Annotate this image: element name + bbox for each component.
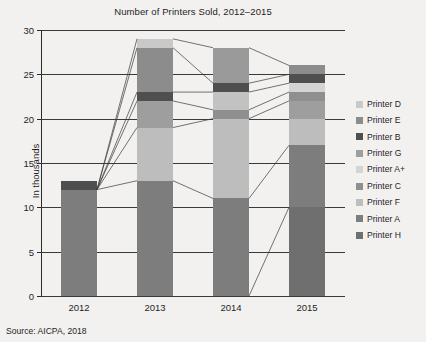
legend-label: Printer H <box>367 231 401 240</box>
y-tick-mark <box>37 296 41 297</box>
legend-label: Printer F <box>367 198 400 207</box>
bar-segment[interactable] <box>289 101 325 119</box>
legend-label: Printer B <box>367 133 400 142</box>
y-axis-title: In thousands <box>30 144 41 198</box>
chart-title: Number of Printers Sold, 2012–2015 <box>41 6 345 17</box>
legend-item[interactable]: Printer H <box>356 227 422 243</box>
legend-item[interactable]: Printer A+ <box>356 162 422 178</box>
bar-segment[interactable] <box>213 83 249 92</box>
stacked-bar[interactable] <box>61 30 97 296</box>
connector-line <box>249 74 289 83</box>
bar-segment[interactable] <box>213 198 249 296</box>
bar-segment[interactable] <box>213 48 249 83</box>
legend-swatch-icon <box>356 199 363 206</box>
connector-line <box>97 101 137 190</box>
legend-item[interactable]: Printer A <box>356 211 422 227</box>
x-tick-label: 2013 <box>144 302 165 313</box>
y-tick-mark <box>37 252 41 253</box>
bar-segment[interactable] <box>289 65 325 74</box>
connector-line <box>97 92 137 190</box>
connector-line <box>173 48 213 83</box>
legend-swatch-icon <box>356 183 363 190</box>
legend-label: Printer A+ <box>367 165 405 174</box>
bar-segment[interactable] <box>137 39 173 48</box>
plot-area: 051015202530 <box>41 30 345 296</box>
bar-segment[interactable] <box>137 101 173 128</box>
bar-segment[interactable] <box>137 128 173 181</box>
gridline <box>41 296 345 297</box>
bar-segment[interactable] <box>213 92 249 110</box>
connector-line <box>249 101 289 119</box>
stacked-bar[interactable] <box>289 30 325 296</box>
connector-line <box>97 128 137 190</box>
bar-segment[interactable] <box>61 181 97 190</box>
connector-line <box>173 181 213 199</box>
legend-label: Printer G <box>367 149 401 158</box>
legend-swatch-icon <box>356 232 363 239</box>
connector-line <box>97 181 137 190</box>
connector-line <box>173 39 213 48</box>
legend-swatch-icon <box>356 150 363 157</box>
legend-swatch-icon <box>356 101 363 108</box>
bar-segment[interactable] <box>289 83 325 92</box>
bar-segment[interactable] <box>137 181 173 296</box>
legend-label: Printer E <box>367 116 400 125</box>
y-tick-mark <box>37 30 41 31</box>
x-tick-label: 2012 <box>68 302 89 313</box>
connector-line <box>173 101 213 110</box>
bar-segment[interactable] <box>213 110 249 119</box>
y-tick-label: 20 <box>23 113 34 124</box>
y-tick-mark <box>37 163 41 164</box>
stacked-bar[interactable] <box>213 30 249 296</box>
legend-item[interactable]: Printer D <box>356 96 422 112</box>
y-tick-mark <box>37 119 41 120</box>
legend-swatch-icon <box>356 215 363 222</box>
connector-line <box>249 92 289 110</box>
legend-item[interactable]: Printer C <box>356 178 422 194</box>
x-tick-label: 2014 <box>220 302 241 313</box>
y-tick-label: 0 <box>29 291 34 302</box>
y-tick-mark <box>37 74 41 75</box>
legend-label: Printer C <box>367 182 401 191</box>
source-note: Source: AICPA, 2018 <box>6 326 87 336</box>
connector-line <box>249 83 289 92</box>
y-tick-mark <box>37 207 41 208</box>
y-tick-label: 25 <box>23 69 34 80</box>
bar-segment[interactable] <box>61 190 97 296</box>
bar-segment[interactable] <box>289 74 325 83</box>
connector-line <box>249 145 289 198</box>
y-tick-label: 30 <box>23 25 34 36</box>
stacked-bar[interactable] <box>137 30 173 296</box>
legend-item[interactable]: Printer F <box>356 194 422 210</box>
connector-line <box>249 48 289 66</box>
bar-segment[interactable] <box>289 145 325 207</box>
bar-segment[interactable] <box>137 92 173 101</box>
legend-swatch-icon <box>356 117 363 124</box>
bar-segment[interactable] <box>213 119 249 199</box>
x-tick-label: 2015 <box>296 302 317 313</box>
legend-swatch-icon <box>356 133 363 140</box>
legend-item[interactable]: Printer B <box>356 129 422 145</box>
legend-item[interactable]: Printer G <box>356 145 422 161</box>
legend-label: Printer A <box>367 215 400 224</box>
bar-segment[interactable] <box>289 119 325 146</box>
y-tick-label: 5 <box>29 246 34 257</box>
y-tick-label: 15 <box>23 158 34 169</box>
connector-line <box>97 39 137 190</box>
chart-legend: Printer DPrinter EPrinter BPrinter GPrin… <box>356 96 422 244</box>
connector-line <box>173 119 213 128</box>
legend-label: Printer D <box>367 100 401 109</box>
bar-segment[interactable] <box>289 92 325 101</box>
bar-segment[interactable] <box>289 207 325 296</box>
legend-item[interactable]: Printer E <box>356 112 422 128</box>
legend-swatch-icon <box>356 166 363 173</box>
y-tick-label: 10 <box>23 202 34 213</box>
bar-segment[interactable] <box>137 48 173 92</box>
chart-container: Number of Printers Sold, 2012–2015 In th… <box>0 0 426 342</box>
